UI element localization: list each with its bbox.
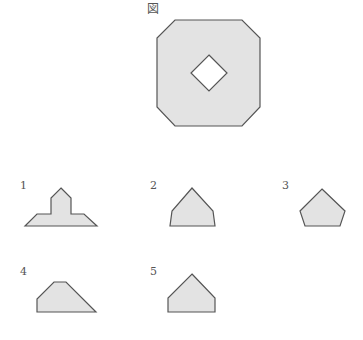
option-2-label: 2 [150, 180, 157, 191]
figure-canvas: 図 1 2 3 4 5 [0, 0, 363, 340]
main-figure [157, 20, 260, 126]
option-5-shape[interactable] [168, 274, 215, 312]
shapes-svg [0, 0, 363, 340]
option-1-label: 1 [20, 180, 27, 191]
option-2-shape[interactable] [170, 188, 215, 226]
option-4-label: 4 [20, 266, 27, 277]
option-5-label: 5 [150, 266, 157, 277]
option-4-shape[interactable] [37, 282, 96, 312]
option-3-label: 3 [282, 180, 289, 191]
option-3-shape[interactable] [300, 189, 345, 226]
option-1-shape[interactable] [25, 188, 97, 226]
